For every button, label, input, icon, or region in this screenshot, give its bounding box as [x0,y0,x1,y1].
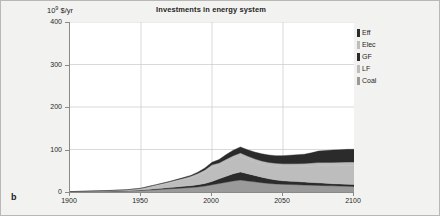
figure-panel: b Investments in energy system 109 $/yr … [0,0,440,216]
x-tick-mark [282,193,283,196]
chart-title: Investments in energy system [69,5,353,14]
legend-swatch-icon [357,65,360,73]
stacked-area-svg [70,22,354,192]
x-tick-label: 2100 [333,197,373,204]
legend-item-eff[interactable]: Eff [357,27,433,38]
x-tick-label: 2000 [191,197,231,204]
chart-legend: EffElecGFLFCoal [357,27,433,87]
x-tick-label: 1900 [49,197,89,204]
y-tick-mark [65,107,69,108]
legend-swatch-icon [357,77,360,85]
x-tick-mark [211,193,212,196]
y-tick-label: 200 [50,103,62,110]
y-tick-mark [65,22,69,23]
legend-label: Eff [362,29,370,36]
legend-label: Coal [362,77,376,84]
legend-swatch-icon [357,41,360,49]
legend-item-gf[interactable]: GF [357,51,433,62]
x-tick-mark [69,193,70,196]
y-tick-mark [65,65,69,66]
legend-item-elec[interactable]: Elec [357,39,433,50]
y-tick-label: 400 [50,18,62,25]
y-tick-label: 300 [50,61,62,68]
y-tick-label: 0 [58,188,62,195]
x-tick-label: 1950 [120,197,160,204]
y-axis-unit-suffix: $/yr [58,6,73,15]
plot-area [69,22,354,193]
x-tick-label: 2050 [262,197,302,204]
legend-swatch-icon [357,53,360,61]
legend-label: GF [362,53,372,60]
legend-label: Elec [362,41,376,48]
y-axis-unit-label: 109 $/yr [47,6,73,15]
y-tick-mark [65,150,69,151]
legend-label: LF [362,65,370,72]
y-tick-label: 100 [50,146,62,153]
x-tick-mark [140,193,141,196]
panel-letter: b [11,193,17,202]
legend-item-lf[interactable]: LF [357,63,433,74]
legend-item-coal[interactable]: Coal [357,75,433,86]
legend-swatch-icon [357,29,360,37]
x-tick-mark [353,193,354,196]
